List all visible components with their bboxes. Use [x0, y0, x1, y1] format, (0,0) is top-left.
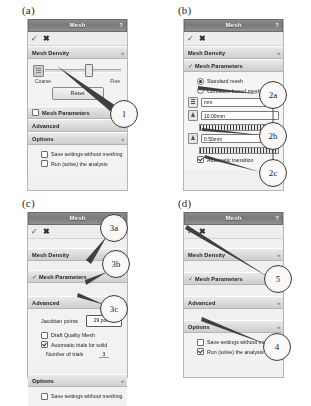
callout-2a: 2a — [259, 81, 287, 109]
section-advanced[interactable]: Advanced » — [184, 296, 283, 309]
run-solve-checkbox[interactable] — [197, 348, 204, 355]
section-label: Mesh Parameters — [195, 63, 243, 69]
panel-c-label: (c) — [22, 197, 35, 209]
mesh-parameters-checkbox[interactable] — [32, 109, 39, 116]
panel-a: (a) Mesh ? ✓ ✖ Mesh Density « Coarse Fin… — [0, 0, 155, 192]
save-settings-checkbox[interactable] — [41, 151, 48, 158]
section-label: Mesh Parameters — [195, 276, 243, 282]
chevron-collapse-icon[interactable]: « — [121, 378, 124, 384]
section-options[interactable]: Options « — [28, 374, 127, 387]
save-settings-label: Save settings without meshing — [51, 151, 123, 157]
ok-check-icon[interactable]: ✓ — [187, 35, 194, 43]
units-value: mm — [204, 99, 212, 105]
slider-track[interactable] — [45, 69, 121, 73]
save-settings-checkbox[interactable] — [41, 393, 48, 400]
cancel-x-icon[interactable]: ✖ — [43, 35, 50, 43]
ok-check-icon[interactable]: ✓ — [187, 228, 194, 236]
title-bar: Mesh ? — [28, 19, 127, 32]
number-of-trials-label: Number of trials — [46, 351, 83, 357]
callout-3a: 3a — [100, 214, 128, 242]
ok-check-icon[interactable]: ✓ — [31, 35, 38, 43]
chevron-collapse-icon[interactable]: « — [121, 136, 124, 142]
automatic-transition-checkbox[interactable] — [197, 156, 204, 163]
cancel-x-icon[interactable]: ✖ — [199, 228, 206, 236]
mesh-density-body: Coarse Fine Reset — [28, 59, 127, 106]
title-bar: Mesh ? — [184, 19, 283, 32]
cancel-x-icon[interactable]: ✖ — [199, 35, 206, 43]
mesh-parameters-check-icon[interactable]: ✓ — [32, 274, 37, 280]
curvature-mesh-radio[interactable] — [197, 87, 204, 94]
help-icon[interactable]: ? — [275, 213, 279, 224]
section-mesh-density[interactable]: Mesh Density » — [184, 248, 283, 261]
global-size-row[interactable]: 10.00mm — [188, 110, 279, 121]
section-options[interactable]: Options « — [184, 320, 283, 333]
chevron-collapse-icon[interactable]: « — [277, 324, 280, 330]
help-icon[interactable]: ? — [275, 20, 279, 31]
jacobian-label: Jacobian points — [41, 318, 78, 324]
ok-check-icon[interactable]: ✓ — [31, 228, 38, 236]
automatic-trials-checkbox[interactable] — [41, 341, 48, 348]
run-solve-row[interactable]: Run (solve) the analysis — [32, 160, 123, 167]
mesh-parameters-check-icon[interactable]: ✓ — [188, 63, 193, 69]
section-mesh-density[interactable]: Mesh Density « — [28, 46, 127, 59]
save-settings-row[interactable]: Save settings without meshing — [32, 393, 123, 400]
save-settings-row[interactable]: Save settings without meshing — [32, 151, 123, 158]
number-of-trials-value[interactable]: 3 — [99, 351, 109, 358]
reset-button[interactable]: Reset — [52, 87, 104, 100]
section-label: Options — [32, 378, 54, 384]
standard-mesh-label: Standard mesh — [207, 78, 243, 84]
automatic-trials-row[interactable]: Automatic trials for solid — [32, 341, 123, 348]
standard-mesh-radio[interactable] — [197, 78, 204, 85]
mesh-parameters-check-icon[interactable]: ✓ — [188, 276, 193, 282]
callout-3b: 3b — [102, 250, 130, 278]
callout-4: 4 — [263, 333, 291, 361]
section-label: Mesh Parameters — [39, 274, 87, 280]
draft-quality-checkbox[interactable] — [41, 332, 48, 339]
density-slider[interactable] — [32, 63, 123, 79]
cancel-x-icon[interactable]: ✖ — [43, 228, 50, 236]
section-options[interactable]: Options « — [28, 132, 127, 145]
draft-quality-row[interactable]: Draft Quality Mesh — [32, 332, 123, 339]
run-solve-checkbox[interactable] — [41, 160, 48, 167]
section-label: Mesh Density — [32, 252, 69, 258]
section-mesh-parameters[interactable]: ✓ Mesh Parameters — [184, 59, 283, 72]
section-label: Mesh Density — [188, 252, 225, 258]
confirm-bar: ✓ ✖ — [184, 32, 283, 46]
title-bar: Mesh ? — [184, 212, 283, 225]
callout-2b: 2b — [259, 122, 287, 150]
section-label: Options — [32, 136, 54, 142]
tolerance-value: 0.50mm — [204, 136, 222, 142]
section-label: Mesh Parameters — [42, 110, 90, 116]
chevron-expand-icon[interactable]: » — [277, 300, 280, 306]
run-solve-label: Run (solve) the analysis — [51, 161, 108, 167]
callout-1: 1 — [110, 100, 138, 128]
chevron-collapse-icon[interactable]: « — [121, 50, 124, 56]
panel-a-label: (a) — [22, 4, 35, 16]
confirm-bar: ✓ ✖ — [184, 225, 283, 239]
section-label: Advanced — [32, 123, 60, 129]
curvature-mesh-label: Curvature based mesh — [207, 88, 261, 94]
chevron-expand-icon[interactable]: » — [277, 50, 280, 56]
save-settings-checkbox[interactable] — [197, 339, 204, 346]
number-of-trials-row[interactable]: Number of trials 3 — [32, 351, 123, 358]
dialog-title: Mesh — [69, 213, 85, 224]
automatic-trials-label: Automatic trials for solid — [51, 342, 107, 348]
options-body: Save settings without meshing — [28, 387, 127, 406]
units-icon — [188, 97, 198, 108]
tolerance-field[interactable]: 0.50mm — [201, 134, 267, 143]
dialog-title: Mesh — [225, 20, 241, 31]
help-icon[interactable]: ? — [119, 20, 123, 31]
global-size-field[interactable]: 10.00mm — [201, 111, 279, 120]
chevron-expand-icon[interactable]: » — [277, 252, 280, 258]
callout-2c: 2c — [259, 159, 287, 187]
options-body: Save settings without meshing Run (solve… — [28, 145, 127, 174]
section-mesh-density[interactable]: Mesh Density » — [184, 46, 283, 59]
panel-d-label: (d) — [178, 197, 191, 209]
run-solve-label: Run (solve) the analysis — [207, 349, 264, 355]
section-label: Advanced — [32, 300, 60, 306]
automatic-transition-label: Automatic transition — [207, 157, 254, 163]
global-size-icon — [188, 110, 198, 121]
slider-knob[interactable] — [85, 64, 93, 77]
dialog-title: Mesh — [69, 20, 85, 31]
panel-c: (c) Mesh ? ✓ ✖ Mesh Density » ✓ Mesh Par… — [0, 193, 155, 385]
